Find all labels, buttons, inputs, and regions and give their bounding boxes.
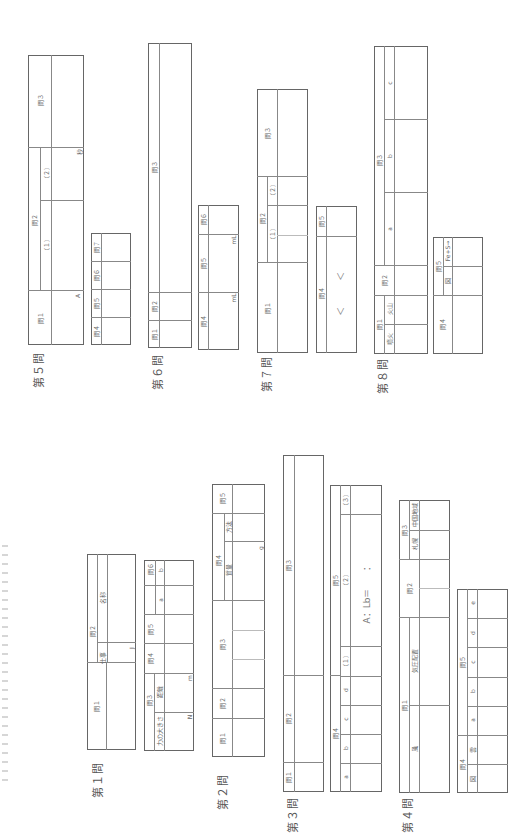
q8-title: 第８問 bbox=[374, 358, 390, 394]
q1-main-box bbox=[87, 554, 136, 750]
q6-q1-label: 問１ bbox=[150, 328, 159, 340]
q1-q2-name: 名称 bbox=[98, 592, 107, 604]
q2-main-box bbox=[212, 484, 265, 757]
q6-q3-label: 問３ bbox=[150, 161, 159, 173]
q8-q1-eruption: 噴火 bbox=[385, 333, 394, 345]
q1-title: 第１問 bbox=[89, 762, 105, 798]
q2-q3-label: 問３ bbox=[218, 638, 227, 650]
q5-q2-1-label: （１） bbox=[42, 236, 51, 254]
q3-small-box bbox=[330, 485, 382, 792]
q1-q1-label: 問１ bbox=[92, 700, 101, 712]
q6-q5-label: 問５ bbox=[199, 257, 208, 269]
q5-title: 第５問 bbox=[30, 352, 46, 388]
q2-title: 第２問 bbox=[214, 774, 230, 810]
q4-q1-wind: 風 bbox=[410, 746, 419, 752]
q1-q3-label: 問３ bbox=[145, 694, 154, 706]
q8-q4-label: 問４ bbox=[438, 318, 447, 330]
q4-q5-c: c bbox=[469, 660, 476, 663]
q5-q2-2-label: （２） bbox=[42, 164, 51, 182]
q4-q3-region: 中国地域 bbox=[410, 503, 419, 527]
q8-q3-a: a bbox=[386, 227, 393, 231]
q5-q2-label: 問２ bbox=[30, 214, 39, 226]
q3-q4-b: b bbox=[342, 746, 349, 750]
q6-unit-ml-2: mL bbox=[230, 235, 237, 244]
q4-q3-city: 札幌 bbox=[410, 538, 419, 550]
q5-q4-label: 問４ bbox=[92, 325, 101, 337]
q8-q2-label: 問２ bbox=[380, 274, 389, 286]
q3-q4-c: c bbox=[342, 717, 349, 720]
q1-unit-n: N bbox=[186, 715, 193, 720]
q2-q2-label: 問２ bbox=[218, 697, 227, 709]
q1-unit-m: m bbox=[186, 675, 193, 681]
q1-q6-label: 問６ bbox=[146, 563, 155, 575]
q1-q4-label: 問４ bbox=[146, 652, 155, 664]
q6-q6-label: 問６ bbox=[199, 213, 208, 225]
q1-q6-b: b bbox=[157, 568, 164, 572]
q3-q5-1: （１） bbox=[341, 652, 350, 670]
q3-q5-label: 問５ bbox=[331, 574, 340, 586]
q3-title: 第３問 bbox=[284, 797, 300, 833]
q3-q1-label: 問１ bbox=[284, 771, 293, 783]
q6-small-box bbox=[198, 205, 239, 350]
q4-q5-e: e bbox=[469, 601, 476, 605]
q7-q5-label: 問５ bbox=[317, 215, 326, 227]
q7-less-than-1: ＜ bbox=[334, 272, 347, 281]
q7-q2-1-label: （１） bbox=[268, 225, 277, 243]
q8-q3-c: c bbox=[386, 81, 393, 84]
q7-title: 第７問 bbox=[258, 356, 274, 392]
q4-q2-label: 問２ bbox=[405, 582, 414, 594]
q5-unit-a: A bbox=[74, 294, 81, 298]
q8-q3-label: 問３ bbox=[375, 154, 384, 166]
q8-main-box bbox=[374, 46, 428, 354]
q8-q3-b: b bbox=[386, 154, 393, 158]
q5-q3-label: 問３ bbox=[36, 94, 45, 106]
q3-q4-a: a bbox=[342, 775, 349, 779]
q2-q1-label: 問１ bbox=[218, 732, 227, 744]
q4-q5-b: b bbox=[469, 689, 476, 693]
q1-q2-label: 問２ bbox=[88, 625, 97, 637]
q1-q3-distance: 距離 bbox=[155, 686, 164, 698]
q4-q5-a: a bbox=[469, 718, 476, 722]
cutoff-text bbox=[2, 545, 8, 785]
q2-q4-method: 方法 bbox=[224, 521, 233, 533]
q7-q3-label: 問３ bbox=[263, 127, 272, 139]
q3-q4-d: d bbox=[342, 688, 349, 692]
q1-q5-label: 問５ bbox=[146, 623, 155, 635]
q4-q4-cloud: 雲 bbox=[468, 747, 477, 753]
q1-q2-work: 仕事 bbox=[98, 652, 107, 664]
q3-q3-label: 問３ bbox=[284, 559, 293, 571]
q7-q1-label: 問１ bbox=[263, 302, 272, 314]
q8-q1-label: 問１ bbox=[375, 318, 384, 330]
q1-q3-force: 力の大きさ bbox=[155, 716, 164, 746]
q3-ratio: A：Lb＝ ： bbox=[360, 557, 373, 624]
q7-q2-2-label: （２） bbox=[268, 181, 277, 199]
q1-q6-a: a bbox=[157, 598, 164, 602]
q4-main-box bbox=[399, 500, 450, 793]
q3-q5-3: （３） bbox=[341, 491, 350, 509]
q7-less-than-2: ＜ bbox=[334, 307, 347, 316]
q7-q2-label: 問２ bbox=[258, 212, 267, 224]
q4-q1-pressure: 気圧配置 bbox=[410, 649, 419, 673]
q2-q4-mass: 質量 bbox=[224, 564, 233, 576]
q4-q3-label: 問３ bbox=[400, 524, 409, 536]
q4-q1-label: 問１ bbox=[400, 699, 409, 711]
q8-q5-equation: Fe+S→ bbox=[444, 241, 451, 262]
q8-q1-volcano: 火山 bbox=[385, 303, 394, 315]
q4-q5-d: d bbox=[469, 631, 476, 635]
q1-unit-j: J bbox=[128, 647, 135, 649]
q3-main-box bbox=[283, 455, 324, 792]
q2-q4-label: 問４ bbox=[214, 554, 223, 566]
q8-q5-figure: 図 bbox=[443, 278, 452, 284]
q2-q5-label: 問５ bbox=[218, 492, 227, 504]
q4-q5-label: 問５ bbox=[458, 656, 467, 668]
q3-q4-label: 問４ bbox=[331, 727, 340, 739]
q5-q7-label: 問７ bbox=[92, 241, 101, 253]
q5-unit-sec: 秒 bbox=[75, 149, 84, 155]
q6-title: 第６問 bbox=[149, 354, 165, 390]
q6-unit-ml-1: mL bbox=[230, 293, 237, 302]
q5-q6-label: 問６ bbox=[92, 269, 101, 281]
q4-q4-label: 問４ bbox=[458, 758, 467, 770]
q5-q5-label: 問５ bbox=[92, 297, 101, 309]
q3-q2-label: 問２ bbox=[284, 712, 293, 724]
q4-q4-figure: 図 bbox=[468, 776, 477, 782]
